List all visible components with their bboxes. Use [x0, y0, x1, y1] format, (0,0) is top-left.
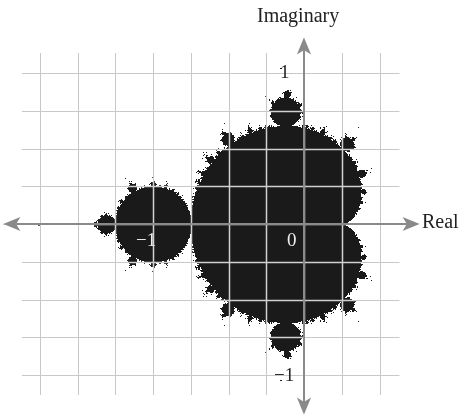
tick-imag-1: 1	[280, 61, 290, 83]
mandelbrot-figure: Imaginary Real 1 −1 −1 0	[0, 0, 469, 416]
real-axis-label: Real	[422, 210, 459, 233]
tick-real-0: 0	[287, 229, 297, 251]
axes	[0, 0, 469, 416]
tick-real-neg1: −1	[136, 229, 156, 251]
imaginary-axis-label: Imaginary	[257, 4, 339, 27]
tick-imag-neg1: −1	[274, 364, 294, 386]
